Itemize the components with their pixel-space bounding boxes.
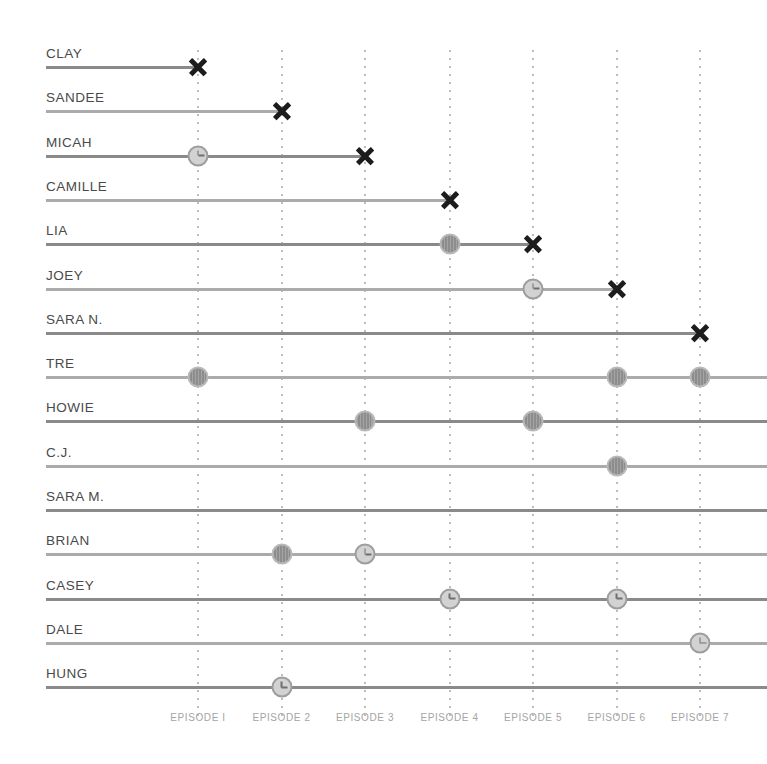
row-name-label: JOEY (46, 268, 83, 283)
clock-hand-horizontal (198, 155, 204, 157)
clock-circle-icon (188, 145, 209, 166)
eliminated-x-icon (187, 56, 209, 78)
x-axis-label-episode-1: EPISODE I (170, 712, 225, 723)
row-timeline-line (46, 598, 767, 601)
row-name-label: SARA M. (46, 489, 104, 504)
clock-hand-horizontal (365, 553, 371, 555)
row-timeline-line (46, 553, 767, 556)
filled-circle-icon (188, 367, 209, 388)
row-timeline-line (46, 66, 198, 69)
x-axis-label-episode-5: EPISODE 5 (504, 712, 562, 723)
gridline-episode-5 (532, 50, 534, 718)
row-name-label: DALE (46, 622, 83, 637)
clock-circle-icon (523, 278, 544, 299)
eliminated-x-icon (689, 322, 711, 344)
eliminated-x-icon (439, 189, 461, 211)
clock-hand-horizontal (282, 686, 288, 688)
row-timeline-line (46, 376, 767, 379)
row-timeline-line (46, 332, 700, 335)
row-timeline-line (46, 199, 450, 202)
x-axis-label-episode-4: EPISODE 4 (420, 712, 478, 723)
x-axis-label-episode-2: EPISODE 2 (252, 712, 310, 723)
eliminated-x-icon (606, 278, 628, 300)
filled-circle-icon (523, 411, 544, 432)
clock-circle-icon (271, 677, 292, 698)
filled-circle-icon (606, 455, 627, 476)
eliminated-x-icon (354, 145, 376, 167)
filled-circle-icon (690, 367, 711, 388)
row-name-label: HOWIE (46, 400, 94, 415)
x-axis-label-episode-6: EPISODE 6 (587, 712, 645, 723)
row-timeline-line (46, 110, 282, 113)
eliminated-x-icon (271, 100, 293, 122)
filled-circle-icon (606, 367, 627, 388)
filled-circle-icon (439, 234, 460, 255)
chart-canvas: CLAYSANDEEMICAHCAMILLELIAJOEYSARA N.TREH… (0, 0, 767, 764)
clock-circle-icon (690, 632, 711, 653)
clock-hand-horizontal (533, 288, 539, 290)
clock-hand-horizontal (700, 642, 706, 644)
row-name-label: MICAH (46, 135, 92, 150)
filled-circle-icon (271, 544, 292, 565)
row-timeline-line (46, 686, 767, 689)
row-timeline-line (46, 465, 767, 468)
row-name-label: C.J. (46, 445, 72, 460)
clock-hand-horizontal (450, 598, 456, 600)
x-axis-label-episode-3: EPISODE 3 (336, 712, 394, 723)
clock-circle-icon (606, 588, 627, 609)
row-name-label: CASEY (46, 578, 94, 593)
filled-circle-icon (355, 411, 376, 432)
row-name-label: CAMILLE (46, 179, 107, 194)
gridline-episode-4 (449, 50, 451, 718)
clock-circle-icon (355, 544, 376, 565)
eliminated-x-icon (522, 233, 544, 255)
row-name-label: TRE (46, 356, 75, 371)
row-timeline-line (46, 642, 767, 645)
row-name-label: SARA N. (46, 312, 103, 327)
gridline-episode-2 (281, 50, 283, 718)
clock-circle-icon (439, 588, 460, 609)
x-axis-label-episode-7: EPISODE 7 (671, 712, 729, 723)
row-name-label: BRIAN (46, 533, 90, 548)
row-timeline-line (46, 509, 767, 512)
row-name-label: CLAY (46, 46, 82, 61)
row-timeline-line (46, 420, 767, 423)
row-name-label: HUNG (46, 666, 88, 681)
row-name-label: SANDEE (46, 90, 105, 105)
row-name-label: LIA (46, 223, 68, 238)
clock-hand-horizontal (617, 598, 623, 600)
